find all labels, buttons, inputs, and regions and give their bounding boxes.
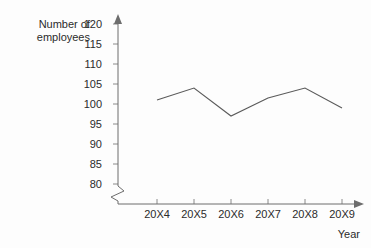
x-axis-tick-label: 20X5 (181, 208, 207, 220)
data-series-line (157, 88, 342, 116)
y-axis-tick-group: 80859095100105110115120 (84, 18, 118, 190)
chart-canvas: 80859095100105110115120 20X420X520X620X7… (0, 0, 371, 248)
y-axis-tick-label: 120 (84, 18, 102, 30)
x-axis-tick-label: 20X4 (144, 208, 170, 220)
line-chart: Number ofemployees Year 8085909510010511… (0, 0, 371, 248)
y-axis-tick-label: 110 (84, 58, 102, 70)
y-axis-tick-label: 115 (84, 38, 102, 50)
y-axis-line (111, 22, 124, 204)
y-axis-tick-label: 80 (90, 178, 102, 190)
x-axis-tick-label: 20X7 (255, 208, 281, 220)
x-axis-tick-label: 20X9 (329, 208, 355, 220)
x-axis-tick-label: 20X8 (292, 208, 318, 220)
x-axis-arrowhead (354, 200, 364, 208)
y-axis-tick-label: 105 (84, 78, 102, 90)
y-axis-tick-label: 90 (90, 138, 102, 150)
y-axis-tick-label: 100 (84, 98, 102, 110)
y-axis-tick-label: 85 (90, 158, 102, 170)
x-axis-tick-label: 20X6 (218, 208, 244, 220)
y-axis-arrowhead (114, 14, 122, 24)
x-axis-tick-group: 20X420X520X620X720X820X9 (144, 199, 355, 220)
y-axis-tick-label: 95 (90, 118, 102, 130)
